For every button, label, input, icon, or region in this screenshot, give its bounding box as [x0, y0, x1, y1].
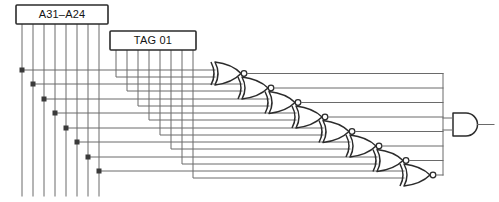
- junction-dot-icon: [53, 111, 58, 116]
- junction-dots: [20, 68, 102, 174]
- xnor-gate-3[interactable]: [265, 92, 443, 114]
- inversion-bubble-icon: [268, 85, 274, 91]
- inversion-bubble-icon: [241, 71, 247, 77]
- junction-dot-icon: [97, 169, 102, 174]
- tag-bus-lines: [116, 50, 404, 178]
- address-bus-label: A31–A24: [39, 8, 86, 20]
- junction-dot-icon: [42, 97, 47, 102]
- xnor-gate-8[interactable]: [400, 164, 443, 186]
- inversion-bubble-icon: [349, 129, 355, 135]
- inversion-bubble-icon: [430, 172, 436, 178]
- address-bus-box[interactable]: A31–A24: [16, 5, 108, 24]
- inversion-bubble-icon: [322, 114, 328, 120]
- junction-dot-icon: [31, 82, 36, 87]
- xnor-gate-5[interactable]: [319, 121, 443, 143]
- xnor-gate-4[interactable]: [292, 106, 443, 128]
- tag-register-label: TAG 01: [134, 34, 172, 46]
- junction-dot-icon: [86, 155, 91, 160]
- junction-dot-icon: [20, 68, 25, 73]
- junction-dot-icon: [64, 126, 69, 131]
- circuit-diagram: A31–A24 TAG 01: [0, 0, 499, 202]
- address-bus-vertical-lines: [22, 24, 99, 196]
- inversion-bubble-icon: [403, 158, 409, 164]
- junction-dot-icon: [75, 140, 80, 145]
- xnor-gate-2[interactable]: [238, 77, 443, 99]
- tag-register-box[interactable]: TAG 01: [110, 31, 196, 50]
- and-gate[interactable]: [443, 113, 494, 136]
- inversion-bubble-icon: [295, 100, 301, 106]
- circuit-canvas: A31–A24 TAG 01: [0, 0, 499, 202]
- inversion-bubble-icon: [376, 143, 382, 149]
